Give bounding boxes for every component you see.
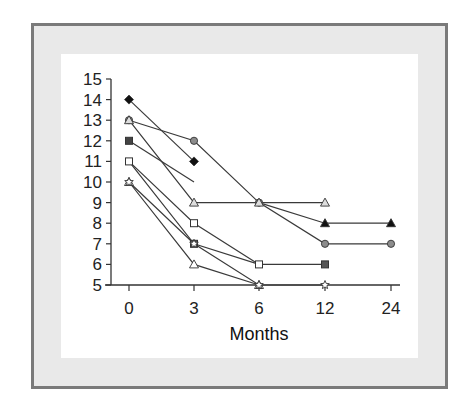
square-marker-icon (126, 158, 133, 165)
y-tick-label: 11 (84, 152, 102, 171)
series-line-open-star (129, 182, 325, 285)
x-tick-label: 3 (189, 299, 198, 318)
y-tick-label: 10 (83, 173, 102, 192)
series-markers (125, 95, 396, 289)
y-tick-label: 5 (93, 276, 102, 295)
y-tick-label: 12 (83, 132, 102, 151)
x-tick-label: 0 (124, 299, 133, 318)
series-lines (129, 100, 391, 285)
circle-marker-icon (321, 240, 328, 247)
circle-marker-icon (387, 240, 394, 247)
y-tick-label: 9 (93, 194, 102, 213)
y-tick-label: 14 (83, 91, 102, 110)
square-marker-icon (191, 220, 198, 227)
star-marker-icon (321, 281, 330, 289)
y-tick-label: 6 (93, 255, 102, 274)
x-tick-label: 24 (382, 299, 401, 318)
x-axis-title: Months (229, 324, 288, 344)
series-line-gray-triangle-open (129, 120, 325, 202)
circle-marker-icon (190, 137, 197, 144)
y-tick-label: 13 (83, 111, 102, 130)
series-line-open-square (129, 161, 259, 264)
series-line-gray-circle (129, 120, 391, 244)
y-tick-label: 8 (93, 214, 102, 233)
square-marker-icon (322, 261, 329, 268)
x-tick-label: 12 (316, 299, 335, 318)
series-line-dark-square-partial (129, 141, 194, 182)
y-tick-label: 7 (93, 235, 102, 254)
x-tick-label: 6 (254, 299, 263, 318)
square-marker-icon (256, 261, 263, 268)
line-chart: 567891011121314150361224 Months (0, 0, 466, 409)
axes: 567891011121314150361224 (83, 70, 400, 318)
series-line-dark-square (129, 161, 325, 264)
square-marker-icon (126, 137, 133, 144)
y-tick-label: 15 (83, 70, 102, 89)
